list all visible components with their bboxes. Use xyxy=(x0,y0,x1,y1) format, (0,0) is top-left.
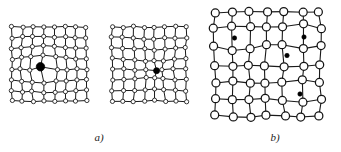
lattice-lattice-a2 xyxy=(109,24,189,104)
lattice-atom xyxy=(185,100,189,104)
lattice-atom xyxy=(228,8,236,16)
lattice-atom xyxy=(121,57,125,61)
lattice-atom xyxy=(20,90,24,94)
lattice-atom xyxy=(133,58,137,62)
lattice-atom xyxy=(173,36,177,40)
lattice-atom xyxy=(247,23,255,31)
lattice-atom xyxy=(55,68,59,72)
lattice-atom xyxy=(244,61,252,69)
lattice-atom xyxy=(84,36,88,40)
lattice-atom xyxy=(184,89,188,93)
lattice-atom xyxy=(246,79,254,87)
lattice-atom xyxy=(121,99,125,103)
lattice-atom xyxy=(120,35,124,39)
lattice-atom xyxy=(184,77,188,81)
lattice-atom xyxy=(42,81,46,85)
lattice-atom xyxy=(30,34,34,38)
lattice-atom xyxy=(184,56,188,60)
lattice-atom xyxy=(173,78,177,82)
lattice-atom xyxy=(42,34,46,38)
lattice-atom xyxy=(65,68,69,72)
lattice-atom xyxy=(211,62,219,70)
lattice-atom xyxy=(10,36,14,40)
lattice-atom xyxy=(10,57,14,61)
lattice-atom xyxy=(120,46,124,50)
lattice-atom xyxy=(174,99,178,103)
lattice-atom xyxy=(212,95,220,103)
lattice-atom xyxy=(132,47,136,51)
lattice-lattice-b1 xyxy=(209,7,325,121)
lattice-atom xyxy=(74,46,78,50)
lattice-atom xyxy=(54,54,58,58)
lattice-atom xyxy=(21,34,25,38)
lattice-atom xyxy=(299,98,307,106)
lattice-atom xyxy=(75,67,79,71)
lattice-atom xyxy=(185,36,189,40)
lattice-atom xyxy=(30,44,34,48)
lattice-atom xyxy=(109,35,113,39)
lattice-atom xyxy=(317,25,325,33)
lattice-atom xyxy=(210,42,218,50)
lattice-atom xyxy=(152,98,156,102)
lattice-atom xyxy=(264,8,272,16)
lattice-atom xyxy=(278,96,286,104)
lattice-atom xyxy=(299,8,307,16)
lattice-atom xyxy=(144,75,148,79)
lattice-atom xyxy=(245,96,253,104)
lattice-atom xyxy=(31,100,35,104)
lattice-atom xyxy=(261,79,269,87)
lattice-atom xyxy=(161,59,165,63)
panel-label: b) xyxy=(270,131,280,144)
lattice-atom xyxy=(152,25,156,29)
lattice-atom xyxy=(84,46,88,50)
lattice-atom xyxy=(85,98,89,102)
lattice-atom xyxy=(317,42,325,50)
lattice-atom xyxy=(174,46,178,50)
lattice-atom xyxy=(121,88,125,92)
lattice-atom xyxy=(131,24,135,28)
lattice-atom xyxy=(9,47,13,51)
lattice-atom xyxy=(109,46,113,50)
lattice-atom xyxy=(247,113,255,121)
lattice-atom xyxy=(161,76,165,80)
lattice-atom xyxy=(19,46,23,50)
lattice-atom xyxy=(142,26,146,30)
lattice-atom xyxy=(73,36,77,40)
lattice-atom xyxy=(184,67,188,71)
lattice-atom xyxy=(74,89,78,93)
lattice-atom xyxy=(229,77,237,85)
lattice-atom xyxy=(111,25,115,29)
lattice-atom xyxy=(315,112,323,120)
lattice-atom xyxy=(174,24,178,28)
lattice-atom xyxy=(152,48,156,52)
lattice-atom xyxy=(133,88,137,92)
lattice-atom xyxy=(144,68,148,72)
lattice-atom xyxy=(21,25,25,29)
lattice-lattice-a1 xyxy=(9,24,89,103)
lattice-atom xyxy=(64,79,68,83)
lattice-atom xyxy=(228,96,236,104)
interstitial-atom xyxy=(285,53,289,57)
lattice-atom xyxy=(229,113,237,121)
lattice-atom xyxy=(278,41,286,49)
lattice-atom xyxy=(209,24,217,32)
lattice-atom xyxy=(153,76,157,80)
lattice-atom xyxy=(173,88,177,92)
lattice-atom xyxy=(315,78,323,86)
lattice-atom xyxy=(110,89,114,93)
lattice-atom xyxy=(54,79,58,83)
lattice-atom xyxy=(41,43,45,47)
lattice-atom xyxy=(184,25,188,29)
lattice-atom xyxy=(152,59,156,63)
lattice-atom xyxy=(64,35,68,39)
lattice-atom xyxy=(260,62,268,70)
lattice-atom xyxy=(30,80,34,84)
lattice-atom xyxy=(122,77,126,81)
lattice-atom xyxy=(297,113,305,121)
lattice-atom xyxy=(162,87,166,91)
lattice-atom xyxy=(75,78,79,82)
lattice-atom xyxy=(282,112,290,120)
lattice-atom xyxy=(73,99,77,103)
lattice-atom xyxy=(143,99,147,103)
lattice-atom xyxy=(64,55,68,59)
